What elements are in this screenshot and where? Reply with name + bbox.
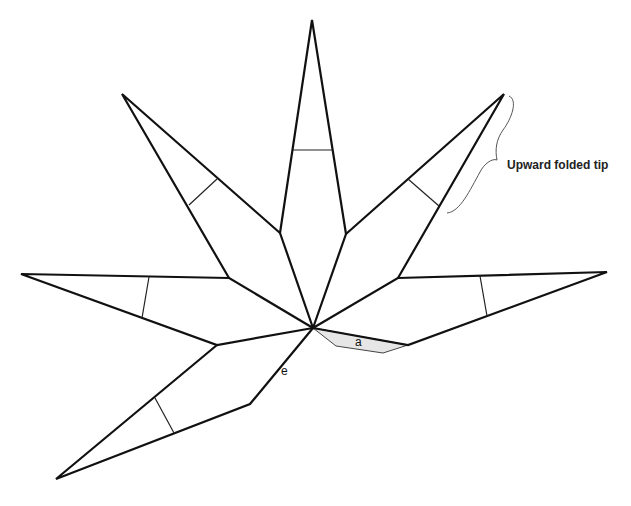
cross-line-right bbox=[480, 276, 487, 316]
leaflet-top bbox=[280, 20, 346, 328]
label-a: a bbox=[355, 335, 362, 349]
leaf-diagram bbox=[0, 0, 631, 506]
cross-line-lower-left bbox=[155, 398, 174, 433]
brace-icon bbox=[447, 96, 513, 213]
leaflet-left bbox=[21, 274, 313, 345]
leaflet-lower-left bbox=[56, 328, 313, 479]
cross-line-upper-right bbox=[408, 179, 439, 206]
cross-line-left bbox=[142, 277, 149, 318]
cross-line-upper-left bbox=[189, 179, 217, 205]
label-e: e bbox=[281, 364, 288, 378]
upward-folded-tip-annotation: Upward folded tip bbox=[507, 158, 608, 172]
